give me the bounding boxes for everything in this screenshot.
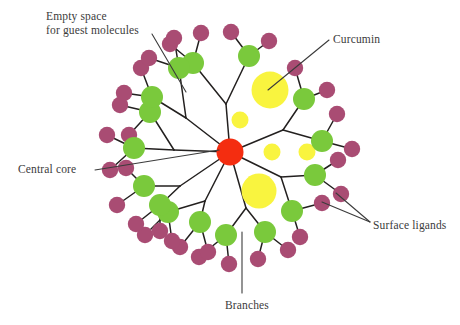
- surface-ligand-node[interactable]: [166, 30, 182, 46]
- surface-ligand-node[interactable]: [330, 152, 346, 168]
- branch-node[interactable]: [238, 45, 260, 67]
- surface-ligand-node[interactable]: [193, 25, 209, 41]
- leader-line-surface-ligands-1: [336, 193, 370, 222]
- surface-ligand-node[interactable]: [329, 106, 345, 122]
- branch-node[interactable]: [149, 194, 171, 216]
- label-central-core: Central core: [18, 163, 76, 177]
- branch-node[interactable]: [311, 130, 333, 152]
- branch-node[interactable]: [189, 211, 211, 233]
- surface-ligand-node[interactable]: [280, 242, 296, 258]
- surface-ligand-node[interactable]: [128, 216, 144, 232]
- surface-ligand-node[interactable]: [333, 186, 349, 202]
- surface-ligand-node[interactable]: [319, 82, 335, 98]
- dendrimer-figure: Empty space for guest moleculesCurcuminC…: [0, 0, 460, 325]
- surface-ligand-node[interactable]: [261, 33, 277, 49]
- branch-node[interactable]: [215, 224, 237, 246]
- central-core-layer: [217, 139, 244, 166]
- branch-node[interactable]: [293, 88, 315, 110]
- label-branches: Branches: [225, 299, 269, 313]
- leader-line-central-core: [95, 150, 219, 170]
- branch-node[interactable]: [254, 221, 276, 243]
- surface-ligand-node[interactable]: [250, 251, 266, 267]
- surface-ligand-node[interactable]: [118, 160, 134, 176]
- surface-ligand-node[interactable]: [223, 24, 239, 40]
- branch-node[interactable]: [281, 200, 303, 222]
- leader-line-surface-ligands-0: [322, 202, 370, 222]
- central-core-node[interactable]: [217, 139, 244, 166]
- surface-ligand-node[interactable]: [99, 127, 115, 143]
- surface-ligand-node[interactable]: [200, 244, 216, 260]
- surface-ligand-node[interactable]: [344, 141, 360, 157]
- surface-ligand-node[interactable]: [102, 162, 118, 178]
- curcumin-blob-small-mid-a[interactable]: [264, 144, 281, 161]
- label-curcumin: Curcumin: [333, 33, 380, 47]
- surface-ligand-node[interactable]: [314, 195, 330, 211]
- surface-ligand-node[interactable]: [109, 197, 125, 213]
- label-empty-space: Empty space for guest molecules: [46, 10, 139, 37]
- surface-ligand-node[interactable]: [152, 223, 168, 239]
- branch-node[interactable]: [304, 164, 326, 186]
- surface-ligand-node[interactable]: [221, 256, 237, 272]
- surface-ligand-node[interactable]: [141, 50, 157, 66]
- branch-node[interactable]: [123, 137, 145, 159]
- branch-node[interactable]: [141, 86, 163, 108]
- curcumin-blob-small-upper[interactable]: [232, 112, 249, 129]
- branch-node[interactable]: [133, 175, 155, 197]
- label-surface-ligands: Surface ligands: [373, 219, 446, 233]
- curcumin-blob-large-lower[interactable]: [242, 174, 277, 209]
- surface-ligand-node[interactable]: [116, 85, 132, 101]
- surface-ligand-node[interactable]: [292, 229, 308, 245]
